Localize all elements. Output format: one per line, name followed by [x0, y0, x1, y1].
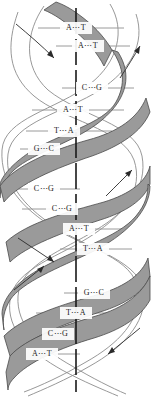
base-pair-label-14: A⋯T	[26, 348, 58, 360]
bp-text-3: C⋯G	[82, 83, 102, 92]
base-pair-label-7: C⋯G	[28, 183, 60, 195]
base-pair-label-1: A⋯T	[60, 22, 92, 34]
bp-text-4: A⋯T	[63, 105, 83, 114]
bp-text-13: C⋯G	[48, 329, 68, 338]
direction-arrow-1-icon	[16, 24, 54, 58]
bp-text-10: T⋯A	[83, 244, 103, 253]
base-pair-label-12: T⋯A	[60, 307, 92, 319]
bp-text-7: C⋯G	[34, 184, 54, 193]
bp-text-6: G⋯C	[34, 144, 54, 153]
dna-double-helix-figure: A⋯T A⋯T C⋯G A⋯T T⋯A	[0, 0, 152, 401]
base-pair-label-2: A⋯T	[72, 40, 104, 52]
base-pair-label-9: A⋯T	[63, 223, 95, 235]
base-pair-label-11: G⋯C	[78, 287, 110, 299]
base-pair-label-13: C⋯G	[42, 328, 74, 340]
bp-text-11: G⋯C	[84, 288, 104, 297]
bp-text-1: A⋯T	[66, 23, 86, 32]
base-pair-label-10: T⋯A	[77, 243, 109, 255]
bp-text-14: A⋯T	[32, 349, 52, 358]
bp-text-2: A⋯T	[78, 41, 98, 50]
dna-helix-canvas: A⋯T A⋯T C⋯G A⋯T T⋯A	[0, 0, 152, 401]
base-pair-label-5: T⋯A	[48, 125, 80, 137]
base-pair-label-6: G⋯C	[28, 143, 60, 155]
bp-text-5: T⋯A	[54, 126, 74, 135]
helix-ribbon-group	[0, 2, 150, 390]
base-pair-label-8: C⋯G	[46, 203, 78, 215]
bp-text-12: T⋯A	[66, 308, 86, 317]
bp-text-9: A⋯T	[69, 224, 89, 233]
bp-text-8: C⋯G	[52, 204, 72, 213]
base-pair-label-3: C⋯G	[76, 82, 108, 94]
direction-arrow-5-icon	[14, 266, 44, 290]
base-pair-label-4: A⋯T	[57, 104, 89, 116]
